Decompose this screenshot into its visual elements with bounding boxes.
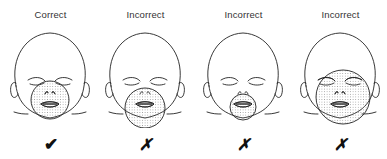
cross-icon: ✗ [97, 135, 194, 155]
cross-icon: ✗ [292, 135, 387, 155]
panel-incorrect-too-large: Incorrect ✗ [292, 0, 387, 159]
baby-face-with-mask-correct [2, 28, 99, 128]
panel-incorrect-too-small: Incorrect ✗ [195, 0, 292, 159]
mask-outline [316, 70, 370, 124]
panel-label: Incorrect [292, 9, 387, 20]
baby-face-with-mask-small [195, 28, 292, 128]
cross-icon: ✗ [195, 135, 292, 155]
baby-face-with-mask-large [292, 28, 387, 128]
panel-correct: Correct ✔ [2, 0, 99, 159]
panel-incorrect-too-low: Incorrect ✗ [97, 0, 194, 159]
panel-label: Correct [2, 9, 99, 20]
panel-label: Incorrect [195, 9, 292, 20]
baby-face-with-mask-low [97, 28, 194, 128]
checkmark-icon: ✔ [2, 135, 99, 155]
panel-label: Incorrect [97, 9, 194, 20]
mask-outline [31, 81, 69, 119]
mask-outline [125, 88, 165, 128]
